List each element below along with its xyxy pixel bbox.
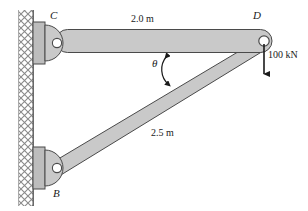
diagram-canvas: [0, 0, 308, 211]
member-CD-body: [56, 30, 272, 53]
pin-hole-C: [52, 38, 61, 47]
member-BD-body: [54, 34, 268, 176]
angle-theta-arc: [162, 57, 169, 85]
bracket-diagram: C D B 2.0 m 2.5 m 100 kN θ: [0, 0, 308, 211]
member-CD: [56, 30, 272, 53]
node-label-C: C: [50, 10, 57, 21]
support-B-base-plate: [33, 147, 45, 189]
dimension-label-diagonal-member: 2.5 m: [151, 128, 174, 138]
angle-theta-label: θ: [152, 58, 157, 69]
member-BD: [54, 34, 268, 176]
pin-hole-B: [52, 163, 61, 172]
fixed-wall: [19, 10, 34, 206]
support-C-base-plate: [33, 22, 45, 64]
support-C: [33, 22, 63, 64]
wall-hatching: [19, 10, 34, 206]
support-B: [33, 147, 63, 189]
node-label-D: D: [253, 10, 261, 21]
theta-arc-path: [162, 57, 169, 85]
node-label-B: B: [53, 188, 60, 199]
dimension-label-top-member: 2.0 m: [131, 14, 154, 24]
load-magnitude-label: 100 kN: [268, 50, 298, 60]
